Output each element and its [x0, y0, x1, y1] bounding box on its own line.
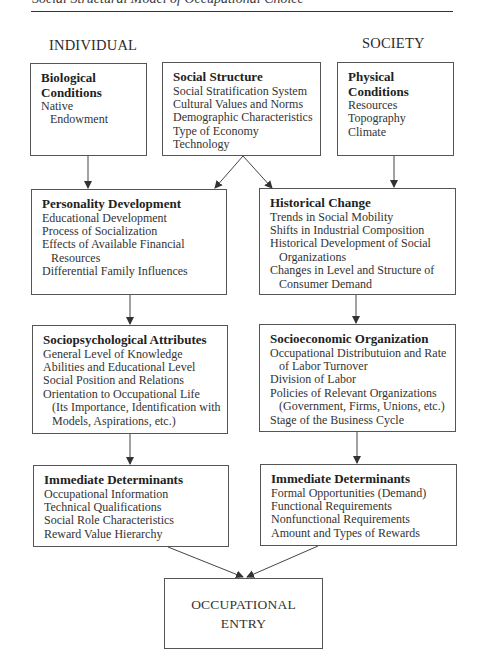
arrow-immediate-individual-to-entry [168, 547, 243, 577]
arrow-social-to-personality [215, 156, 243, 188]
arrow-social-to-historical [243, 156, 272, 188]
arrow-immediate-society-to-entry [247, 546, 318, 577]
flow-arrows [0, 0, 480, 666]
